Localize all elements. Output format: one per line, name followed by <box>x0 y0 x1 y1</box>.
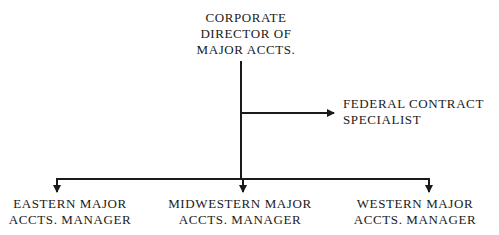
node-line: DIRECTOR OF <box>176 26 316 42</box>
node-line: MAJOR ACCTS. <box>176 42 316 58</box>
node-line: CORPORATE <box>176 10 316 26</box>
node-line: MIDWESTERN MAJOR <box>166 196 314 212</box>
node-midwestern-manager: MIDWESTERN MAJOR ACCTS. MANAGER <box>166 196 314 228</box>
node-line: EASTERN MAJOR <box>8 196 132 212</box>
node-federal-contract-specialist: FEDERAL CONTRACT SPECIALIST <box>343 96 493 128</box>
org-chart: CORPORATE DIRECTOR OF MAJOR ACCTS. FEDER… <box>0 0 499 235</box>
node-eastern-manager: EASTERN MAJOR ACCTS. MANAGER <box>8 196 132 228</box>
node-line: SPECIALIST <box>343 112 493 128</box>
node-line: ACCTS. MANAGER <box>350 212 480 228</box>
node-line: WESTERN MAJOR <box>350 196 480 212</box>
node-corporate-director: CORPORATE DIRECTOR OF MAJOR ACCTS. <box>176 10 316 58</box>
node-line: ACCTS. MANAGER <box>166 212 314 228</box>
node-line: FEDERAL CONTRACT <box>343 96 493 112</box>
node-western-manager: WESTERN MAJOR ACCTS. MANAGER <box>350 196 480 228</box>
node-line: ACCTS. MANAGER <box>8 212 132 228</box>
